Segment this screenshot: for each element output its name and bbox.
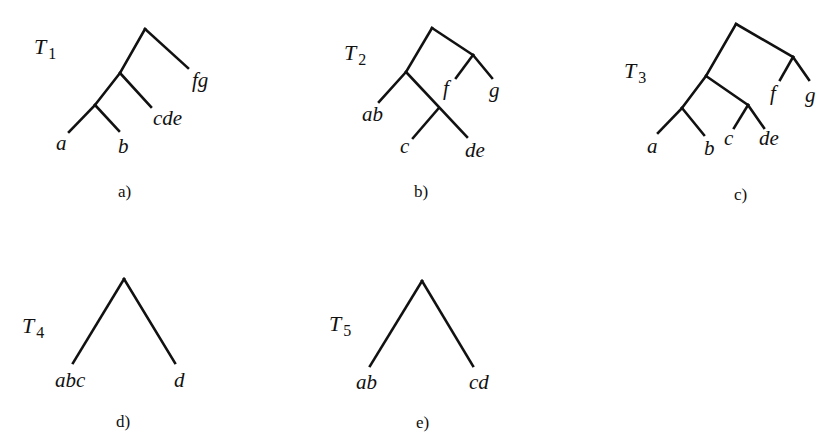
tree-letter: T	[329, 311, 341, 336]
tree-name-t2: T2	[344, 42, 364, 64]
branch-edge	[706, 24, 736, 76]
tree-name-t3: T3	[624, 60, 644, 82]
tree-subscript: 1	[48, 45, 56, 62]
leaf-label-de: de	[759, 128, 779, 149]
caption-b: b)	[414, 183, 428, 200]
tree-letter: T	[624, 58, 636, 83]
leaf-label-ab: ab	[362, 104, 383, 125]
leaf-label-g: g	[489, 80, 500, 101]
branch-edge	[706, 76, 748, 105]
caption-c: c)	[734, 186, 747, 203]
branch-edge	[370, 281, 422, 366]
branch-edge	[658, 108, 682, 133]
caption-e: e)	[416, 414, 429, 431]
branch-edge	[406, 28, 432, 72]
branch-edge	[456, 55, 473, 78]
branch-edge	[145, 29, 188, 68]
leaf-label-b: b	[704, 138, 715, 159]
tree-subscript: 3	[638, 69, 646, 86]
branch-edge	[780, 57, 793, 80]
tree-name-t5: T5	[329, 313, 349, 335]
branch-edge	[379, 72, 406, 102]
tree-subscript: 5	[343, 322, 351, 339]
branch-edge	[120, 73, 151, 107]
leaf-label-fg: fg	[192, 70, 208, 91]
tree-name-t1: T1	[34, 36, 54, 58]
leaf-label-cd: cd	[469, 372, 489, 393]
branch-edge	[120, 29, 145, 73]
tree-t2-branches	[379, 28, 492, 138]
branch-edge	[422, 281, 473, 366]
leaf-label-f: f	[770, 83, 776, 104]
tree-letter: T	[344, 40, 356, 65]
caption-a: a)	[118, 183, 131, 200]
branch-edge	[95, 73, 120, 105]
leaf-label-g: g	[805, 85, 816, 106]
leaf-label-a: a	[56, 133, 67, 154]
branch-edge	[734, 105, 748, 128]
caption-d: d)	[116, 413, 130, 430]
leaf-label-b: b	[118, 136, 129, 157]
leaf-label-abc: abc	[55, 370, 85, 391]
tree-t4-branches	[73, 279, 175, 363]
leaf-label-a: a	[647, 136, 658, 157]
branch-edge	[73, 279, 124, 363]
tree-edges	[0, 0, 837, 438]
branch-edge	[473, 55, 492, 78]
leaf-label-c: c	[400, 136, 409, 157]
branch-edge	[95, 105, 119, 131]
leaf-label-c: c	[724, 128, 733, 149]
leaf-label-ab: ab	[356, 372, 377, 393]
leaf-label-f: f	[443, 78, 449, 99]
branch-edge	[793, 57, 809, 80]
leaf-label-de: de	[465, 140, 485, 161]
branch-edge	[69, 105, 95, 132]
tree-letter: T	[34, 34, 46, 59]
branch-edge	[682, 108, 704, 135]
branch-edge	[413, 109, 438, 138]
branch-edge	[748, 105, 764, 128]
branch-edge	[406, 72, 467, 137]
tree-subscript: 2	[358, 51, 366, 68]
branch-edge	[736, 24, 793, 57]
branch-edge	[124, 279, 175, 363]
branch-edge	[432, 28, 473, 55]
leaf-label-cde: cde	[153, 108, 182, 129]
tree-figure: T1 a b cde fg a) T2 ab c de f g b) T3 a …	[0, 0, 837, 438]
tree-subscript: 4	[36, 324, 44, 341]
tree-t3-branches	[658, 24, 809, 135]
tree-letter: T	[22, 313, 34, 338]
branch-edge	[682, 76, 706, 108]
tree-t5-branches	[370, 281, 473, 366]
leaf-label-d: d	[174, 370, 185, 391]
tree-name-t4: T4	[22, 315, 42, 337]
